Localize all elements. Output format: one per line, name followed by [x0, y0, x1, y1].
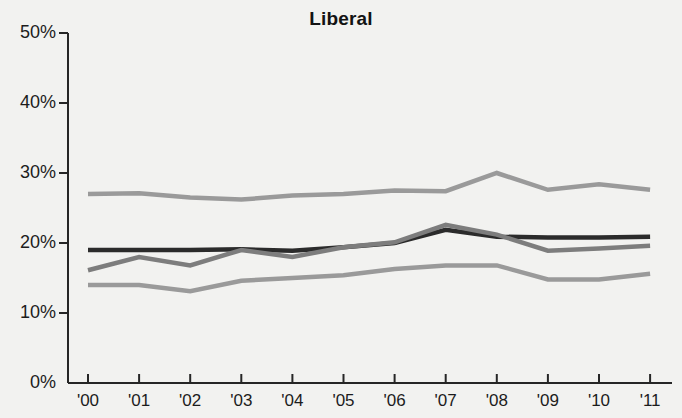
- plot-area: [0, 0, 682, 418]
- chart-container: Liberal 0%10%20%30%40%50% '00'01'02'03'0…: [0, 0, 682, 418]
- series-top-line: [88, 173, 650, 200]
- series-dark-line: [88, 230, 650, 251]
- series-mid-line: [88, 225, 650, 270]
- series-bottom-line: [88, 265, 650, 291]
- data-series: [88, 173, 650, 291]
- axes: [59, 33, 672, 383]
